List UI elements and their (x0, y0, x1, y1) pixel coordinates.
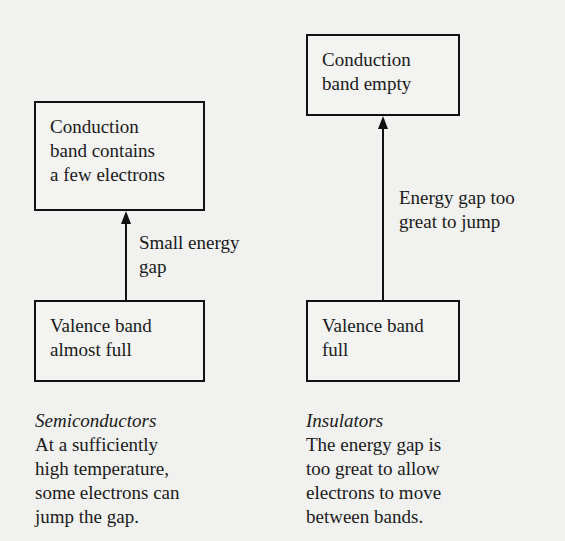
caption-line: too great to allow (306, 457, 441, 481)
caption-line: The energy gap is (306, 433, 441, 457)
label-line: Small energy (139, 231, 239, 255)
label-line: Energy gap too (399, 186, 515, 210)
semiconductor-valence-band-box: Valence band almost full (34, 300, 205, 382)
caption-line: between bands. (306, 505, 441, 529)
insulator-caption: Insulators The energy gap is too great t… (306, 409, 441, 529)
semiconductor-gap-label: Small energy gap (139, 231, 239, 279)
semiconductor-gap-arrow (125, 222, 127, 301)
insulator-conduction-band-box: Conduction band empty (306, 34, 460, 116)
caption-line: At a sufficiently (35, 433, 180, 457)
caption-line: jump the gap. (35, 505, 180, 529)
box-text-line: band empty (322, 72, 458, 96)
insulator-gap-arrow (382, 127, 384, 301)
box-text-line: Valence band (322, 314, 458, 338)
insulator-gap-label: Energy gap too great to jump (399, 186, 515, 234)
label-line: gap (139, 255, 239, 279)
box-text-line: Conduction (322, 48, 458, 72)
box-text-line: full (322, 338, 458, 362)
caption-line: some electrons can (35, 481, 180, 505)
box-text-line: Conduction (50, 115, 203, 139)
label-line: great to jump (399, 210, 515, 234)
box-text-line: almost full (50, 338, 203, 362)
caption-line: high temperature, (35, 457, 180, 481)
caption-line: electrons to move (306, 481, 441, 505)
box-text-line: Valence band (50, 314, 203, 338)
insulator-valence-band-box: Valence band full (306, 300, 460, 382)
caption-title: Semiconductors (35, 409, 180, 433)
box-text-line: a few electrons (50, 163, 203, 187)
caption-title: Insulators (306, 409, 441, 433)
semiconductor-conduction-band-box: Conduction band contains a few electrons (34, 101, 205, 211)
box-text-line: band contains (50, 139, 203, 163)
semiconductor-caption: Semiconductors At a sufficiently high te… (35, 409, 180, 529)
